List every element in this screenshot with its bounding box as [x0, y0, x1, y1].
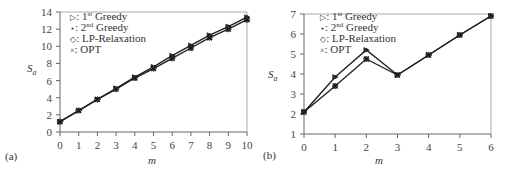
marker-star — [365, 48, 369, 52]
x-tick-label: 3 — [113, 139, 119, 151]
x-tick-label: 1 — [76, 139, 82, 151]
x-tick-label: 4 — [132, 139, 138, 151]
y-axis-label: Sa — [27, 62, 37, 77]
y-tick-label: 6 — [291, 28, 297, 40]
y-tick-label: 7 — [291, 8, 297, 20]
y-tick-label: 1 — [291, 128, 297, 140]
x-tick-label: 3 — [395, 141, 401, 153]
chart-figure: 02468101214012345678910Sam(a)▷: 1st Gree… — [0, 0, 511, 173]
y-tick-label: 4 — [47, 92, 53, 104]
x-tick-label: 8 — [207, 139, 213, 151]
legend-item: ×: OPT — [320, 43, 351, 55]
panel-label: (b) — [263, 149, 276, 162]
y-tick-label: 5 — [291, 48, 297, 60]
panel-label: (a) — [5, 150, 18, 163]
x-tick-label: 0 — [57, 139, 63, 151]
x-tick-label: 6 — [169, 139, 175, 151]
x-tick-label: 1 — [332, 141, 338, 153]
y-axis-label: Sa — [268, 68, 278, 83]
x-tick-label: 5 — [151, 139, 157, 151]
y-tick-label: 2 — [291, 108, 297, 120]
y-tick-label: 6 — [47, 75, 53, 87]
x-axis-label: m — [148, 154, 156, 166]
y-tick-label: 14 — [41, 6, 53, 18]
x-tick-label: 7 — [188, 139, 194, 151]
legend-item: ×: OPT — [70, 43, 101, 55]
y-tick-label: 4 — [291, 68, 297, 80]
marker-star — [333, 75, 337, 79]
chart-panel-a: 02468101214012345678910Sam(a)▷: 1st Gree… — [5, 6, 253, 166]
x-tick-label: 6 — [488, 141, 494, 153]
y-tick-label: 0 — [47, 126, 53, 138]
y-tick-label: 10 — [41, 40, 53, 52]
x-tick-label: 4 — [426, 141, 432, 153]
x-tick-label: 0 — [301, 141, 307, 153]
x-tick-label: 2 — [364, 141, 370, 153]
chart-panel-b: 12345670123456Sam(b)▷: 1st Greedy⋆: 2nd … — [263, 8, 494, 166]
legend: ▷: 1st Greedy⋆: 2nd Greedy◇: LP-Relaxati… — [320, 10, 397, 55]
y-tick-label: 8 — [47, 57, 53, 69]
x-axis-label: m — [375, 154, 383, 166]
x-tick-label: 9 — [226, 139, 232, 151]
x-tick-label: 2 — [95, 139, 101, 151]
x-tick-label: 10 — [242, 139, 254, 151]
y-tick-label: 3 — [291, 88, 297, 100]
y-tick-label: 12 — [41, 23, 52, 35]
legend: ▷: 1st Greedy⋆: 2nd Greedy◇: LP-Relaxati… — [70, 10, 147, 55]
y-tick-label: 2 — [47, 109, 53, 121]
x-tick-label: 5 — [457, 141, 463, 153]
